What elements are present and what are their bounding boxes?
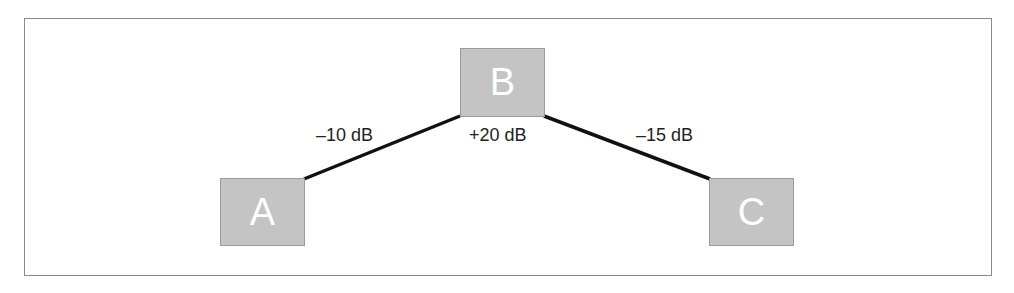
connector-lines <box>0 0 1014 293</box>
node-b-gain-label: +20 dB <box>469 125 527 146</box>
node-c-label: C <box>738 191 765 234</box>
node-c: C <box>709 178 794 246</box>
edge-a-b-label: –10 dB <box>316 125 373 146</box>
node-b-label: B <box>490 61 515 104</box>
node-a: A <box>220 178 305 246</box>
node-a-label: A <box>250 191 275 234</box>
node-b: B <box>460 48 545 117</box>
edge-b-c-label: –15 dB <box>636 125 693 146</box>
